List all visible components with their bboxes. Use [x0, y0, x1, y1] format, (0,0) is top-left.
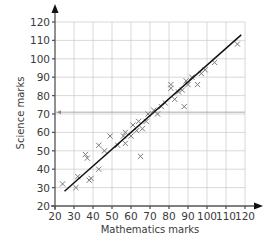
- x-tick-label: 110: [216, 210, 236, 222]
- data-point: [96, 143, 101, 148]
- line-of-best-fit: [65, 35, 242, 191]
- x-tick-label: 80: [162, 210, 175, 222]
- data-point: [123, 141, 128, 146]
- y-tick-label: 90: [37, 71, 50, 83]
- x-tick-label: 70: [143, 210, 156, 222]
- arrow-left-icon: [57, 110, 61, 114]
- y-axis-title: Science marks: [15, 77, 26, 150]
- y-tick-label: 100: [30, 53, 50, 65]
- arrow-right-icon: [254, 203, 263, 210]
- y-tick-label: 70: [37, 108, 50, 120]
- y-tick-label: 120: [30, 16, 50, 28]
- grid-lines: [55, 22, 245, 206]
- y-tick-label: 20: [37, 200, 50, 212]
- y-tick-label: 40: [37, 163, 50, 175]
- x-tick-label: 90: [181, 210, 194, 222]
- x-tick-label: 50: [105, 210, 118, 222]
- data-point: [172, 97, 177, 102]
- x-tick-label: 40: [86, 210, 99, 222]
- y-tick-label: 60: [37, 126, 50, 138]
- y-tick-label: 30: [37, 182, 50, 194]
- y-tick-label: 80: [37, 90, 50, 102]
- scatter-chart: 2030405060708090100110120 20304050607080…: [0, 0, 270, 251]
- y-tick-labels: 2030405060708090100110120: [30, 16, 50, 212]
- x-axis-title: Mathematics marks: [101, 224, 200, 235]
- arrow-up-icon: [52, 4, 59, 13]
- data-point: [182, 104, 187, 109]
- x-tick-label: 30: [67, 210, 80, 222]
- data-point: [140, 126, 145, 131]
- data-point: [138, 154, 143, 159]
- x-tick-label: 100: [197, 210, 217, 222]
- y-tick-label: 110: [30, 34, 50, 46]
- x-tick-label: 60: [124, 210, 137, 222]
- x-tick-labels: 2030405060708090100110120: [48, 210, 255, 222]
- y-tick-label: 50: [37, 145, 50, 157]
- data-point: [195, 82, 200, 87]
- x-tick-label: 120: [235, 210, 255, 222]
- x-tick-label: 20: [48, 210, 61, 222]
- data-point: [235, 41, 240, 46]
- data-point: [60, 181, 65, 186]
- axes: [51, 4, 263, 210]
- best-fit-line: [65, 35, 242, 191]
